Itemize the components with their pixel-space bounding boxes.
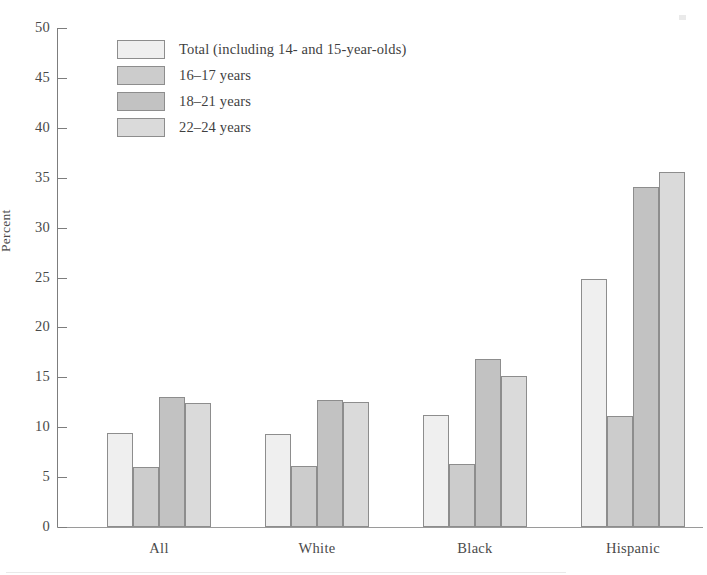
legend-swatch [117, 40, 165, 59]
bar[interactable] [133, 467, 159, 527]
bar[interactable] [607, 416, 633, 527]
legend-swatch [117, 118, 165, 137]
bar-chart-figure: Percent 05101520253035404550 AllWhiteBla… [0, 0, 707, 575]
legend-label: Total (including 14- and 15-year-olds) [179, 41, 406, 58]
bar[interactable] [317, 400, 343, 527]
bar[interactable] [265, 434, 291, 527]
x-axis-category-label: Black [415, 540, 535, 557]
bar[interactable] [159, 397, 185, 527]
y-axis-tick-label: 5 [8, 469, 50, 484]
legend-item[interactable]: 18–21 years [117, 88, 447, 114]
y-axis-tick-label: 50 [8, 20, 50, 35]
legend-label: 22–24 years [179, 119, 251, 136]
bar[interactable] [449, 464, 475, 527]
legend-label: 18–21 years [179, 93, 251, 110]
y-axis-tick-label: 35 [8, 170, 50, 185]
y-axis-tick-label: 40 [8, 120, 50, 135]
bar-group [581, 28, 685, 527]
legend-label: 16–17 years [179, 67, 251, 84]
bar[interactable] [581, 279, 607, 528]
page-bottom-rule [6, 572, 566, 573]
chart-legend: Total (including 14- and 15-year-olds)16… [117, 36, 447, 140]
y-axis-tick-label: 0 [8, 519, 50, 534]
legend-item[interactable]: 16–17 years [117, 62, 447, 88]
y-axis-tick-label: 15 [8, 369, 50, 384]
bar[interactable] [343, 402, 369, 527]
y-axis-tick-label: 30 [8, 220, 50, 235]
bar[interactable] [185, 403, 211, 527]
bar[interactable] [659, 172, 685, 527]
x-axis-category-label: All [99, 540, 219, 557]
y-axis-title: Percent [0, 209, 14, 252]
y-axis-tick-label: 20 [8, 319, 50, 334]
x-axis-category-label: White [257, 540, 377, 557]
y-axis-tick-label: 25 [8, 270, 50, 285]
y-axis-tick-label: 45 [8, 70, 50, 85]
x-axis-category-label: Hispanic [573, 540, 693, 557]
bar[interactable] [501, 376, 527, 527]
bar[interactable] [423, 415, 449, 527]
bar[interactable] [107, 433, 133, 527]
y-axis-tick-label: 10 [8, 419, 50, 434]
legend-item[interactable]: Total (including 14- and 15-year-olds) [117, 36, 447, 62]
legend-swatch [117, 66, 165, 85]
bar[interactable] [291, 466, 317, 527]
bar[interactable] [633, 187, 659, 527]
bar[interactable] [475, 359, 501, 527]
x-axis-line [57, 527, 703, 528]
legend-swatch [117, 92, 165, 111]
legend-item[interactable]: 22–24 years [117, 114, 447, 140]
scan-artifact-mark [679, 15, 686, 20]
